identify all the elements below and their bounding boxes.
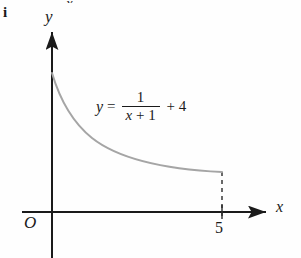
equation-relation: = <box>107 98 115 115</box>
origin-label: O <box>24 214 36 231</box>
x-axis-label: x <box>276 199 283 215</box>
equation-tail: + 4 <box>167 98 187 115</box>
fraction-denominator: x + 1 <box>123 107 159 123</box>
clipped-text-fragment: x <box>66 0 73 3</box>
equation-annotation: y = 1 x + 1 + 4 <box>96 90 186 123</box>
fraction-numerator: 1 <box>133 90 149 106</box>
equation-lhs: y <box>96 98 103 116</box>
item-marker: i <box>3 5 7 20</box>
y-axis-label: y <box>45 8 53 25</box>
graph-figure: i x y x O 5 y = 1 x + 1 + 4 <box>0 0 301 258</box>
x-tick-label-5: 5 <box>215 220 223 236</box>
denominator-rest: + 1 <box>132 107 155 123</box>
graph-canvas <box>0 0 301 258</box>
equation-fraction: 1 x + 1 <box>122 90 160 123</box>
